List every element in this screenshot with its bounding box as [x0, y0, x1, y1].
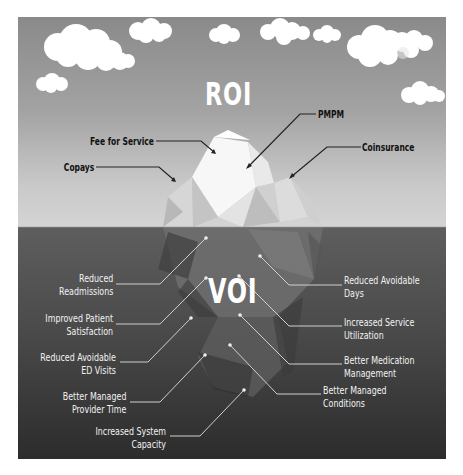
- iceberg-infographic: ROI VOI PMPM Fee for Service Coinsurance…: [18, 17, 446, 459]
- voi-label-better-managed-provider-time: Better Managed Provider Time: [62, 390, 126, 416]
- voi-label-reduced-avoidable-ed-visits: Reduced Avoidable ED Visits: [40, 351, 116, 377]
- roi-title: ROI: [205, 75, 252, 113]
- voi-label-better-managed-conditions: Better Managed Conditions: [323, 384, 387, 410]
- voi-label-improved-patient-satisfaction: Improved Patient Satisfaction: [45, 312, 113, 338]
- voi-label-reduced-readmissions: Reduced Readmissions: [59, 272, 113, 298]
- voi-label-increased-system-capacity: Increased System Capacity: [95, 425, 166, 451]
- roi-label-pmpm: PMPM: [318, 108, 344, 121]
- roi-label-coinsurance: Coinsurance: [362, 141, 414, 154]
- voi-label-better-medication-management: Better Medication Management: [344, 354, 414, 380]
- voi-label-increased-service-utilization: Increased Service Utilization: [344, 316, 414, 342]
- roi-label-fee-for-service: Fee for Service: [90, 135, 154, 148]
- voi-label-reduced-avoidable-days: Reduced Avoidable Days: [344, 274, 420, 300]
- voi-title: VOI: [208, 271, 257, 311]
- roi-label-copays: Copays: [64, 161, 94, 174]
